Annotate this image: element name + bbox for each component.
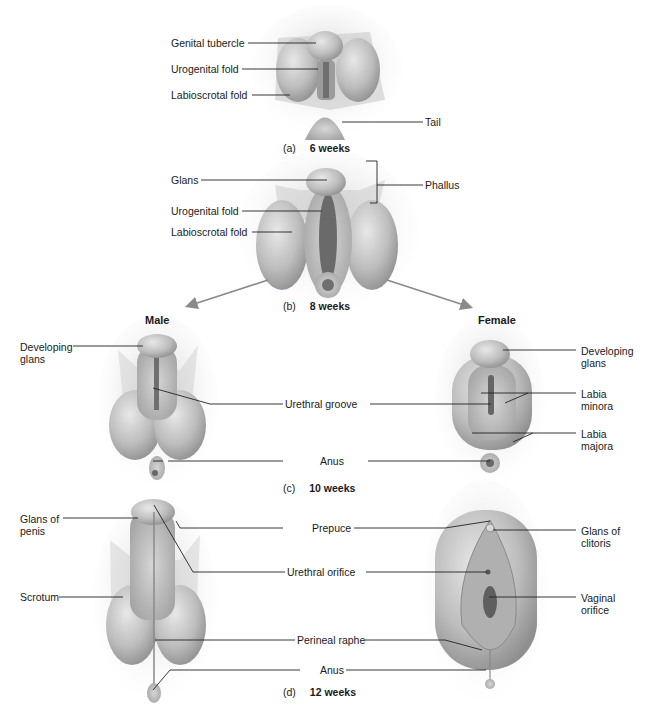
label-labioscrotal-fold-b: Labioscrotal fold	[171, 226, 247, 238]
caption-b-letter: (b)	[283, 300, 296, 312]
arrow-to-female	[387, 280, 470, 307]
label-urethral-orifice: Urethral orifice	[287, 566, 355, 578]
caption-a-age: 6 weeks	[310, 142, 350, 154]
caption-c-letter: (c)	[283, 482, 295, 494]
diagram-artwork	[0, 0, 655, 714]
panel-b-drawing	[238, 150, 418, 310]
caption-d: (d)12 weeks	[283, 686, 356, 698]
label-developing-glans-male: Developing glans	[20, 341, 73, 365]
caption-a-letter: (a)	[283, 142, 296, 154]
label-labia-majora: Labia majora	[581, 428, 613, 452]
label-phallus: Phallus	[425, 179, 459, 191]
caption-b-age: 8 weeks	[310, 300, 350, 312]
label-genital-tubercle: Genital tubercle	[171, 37, 245, 49]
label-glans-of-clitoris: Glans of clitoris	[581, 525, 620, 549]
panel-c-female-drawing	[435, 315, 545, 485]
label-glans: Glans	[171, 174, 198, 186]
caption-b: (b)8 weeks	[283, 300, 350, 312]
label-urogenital-fold-a: Urogenital fold	[171, 63, 239, 75]
label-scrotum: Scrotum	[20, 591, 59, 603]
caption-a: (a)6 weeks	[283, 142, 350, 154]
label-glans-of-penis: Glans of penis	[20, 513, 59, 537]
label-anus-c: Anus	[320, 455, 344, 467]
label-developing-glans-female: Developing glans	[581, 345, 634, 369]
label-vaginal-orifice: Vaginal orifice	[581, 592, 615, 616]
label-urethral-groove: Urethral groove	[285, 398, 357, 410]
label-prepuce: Prepuce	[312, 522, 351, 534]
heading-male: Male	[145, 314, 169, 326]
panel-d-female-drawing	[423, 480, 547, 700]
panel-c-male-drawing	[98, 315, 218, 485]
label-perineal-raphe: Perineal raphe	[297, 634, 365, 646]
heading-female: Female	[478, 314, 516, 326]
arrow-to-male	[188, 280, 268, 306]
label-labia-minora: Labia minora	[581, 388, 613, 412]
caption-d-letter: (d)	[283, 686, 296, 698]
panel-d-male-drawing	[93, 499, 217, 703]
panel-a-drawing	[252, 5, 402, 140]
caption-d-age: 12 weeks	[310, 686, 356, 698]
caption-c-age: 10 weeks	[309, 482, 355, 494]
label-urogenital-fold-b: Urogenital fold	[171, 205, 239, 217]
caption-c: (c)10 weeks	[283, 482, 355, 494]
label-labioscrotal-fold-a: Labioscrotal fold	[171, 89, 247, 101]
label-tail: Tail	[425, 116, 441, 128]
label-anus-d: Anus	[320, 664, 344, 676]
